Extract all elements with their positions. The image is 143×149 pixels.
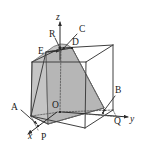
point-label-c: C bbox=[79, 24, 85, 34]
axis-label-y: y bbox=[129, 114, 135, 124]
point-dot-o bbox=[59, 111, 61, 113]
point-label-a: A bbox=[11, 102, 18, 112]
cut-plane-left-band bbox=[31, 52, 48, 124]
point-label-d: D bbox=[72, 37, 79, 47]
axis-label-z: z bbox=[55, 12, 60, 22]
cube-edge-top-right bbox=[86, 45, 113, 62]
cube-edge-bottom-right bbox=[85, 110, 113, 128]
point-label-q: Q bbox=[114, 116, 121, 126]
point-dot-d bbox=[71, 47, 73, 49]
point-label-e: E bbox=[38, 46, 44, 56]
point-label-b: B bbox=[115, 85, 121, 95]
point-label-r: R bbox=[49, 29, 56, 39]
point-dot-p bbox=[37, 125, 39, 127]
point-dot-q bbox=[102, 112, 104, 114]
axis-label-x: x bbox=[27, 131, 33, 141]
point-label-p: P bbox=[41, 132, 46, 142]
point-label-o: O bbox=[52, 100, 59, 110]
cube-cross-section-diagram: z y x O A B C D E P Q R bbox=[0, 0, 143, 149]
figure-container: z y x O A B C D E P Q R bbox=[0, 0, 143, 149]
